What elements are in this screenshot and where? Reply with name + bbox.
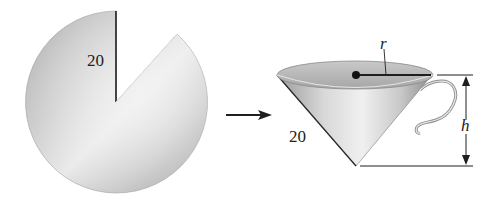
cup-handle <box>416 81 455 133</box>
cone-height-label: h <box>461 116 470 135</box>
sector-radius-label: 20 <box>87 51 104 70</box>
transform-arrow <box>226 110 272 120</box>
sector-shape <box>26 11 208 193</box>
cone-center-dot <box>352 71 360 79</box>
cone-diagram: 20 r 20 <box>0 0 501 198</box>
cone-radius-label: r <box>380 34 387 53</box>
diagram-svg: 20 r 20 <box>0 0 501 198</box>
arrow-down-icon <box>462 155 470 165</box>
arrow-up-icon <box>462 76 470 86</box>
cone-slant-label: 20 <box>289 127 306 146</box>
